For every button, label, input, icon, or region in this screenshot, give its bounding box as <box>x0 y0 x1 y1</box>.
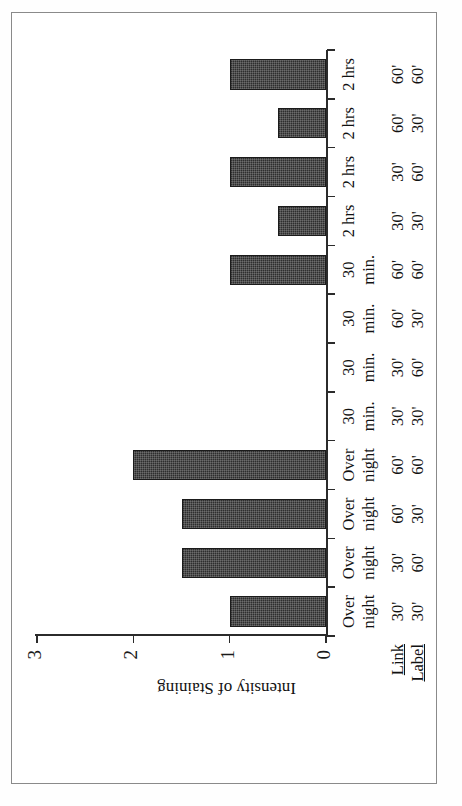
label-bottom: 60' <box>408 148 428 197</box>
x-axis-tick <box>327 98 335 100</box>
label-top: 60' <box>388 441 408 490</box>
x-axis-tick <box>327 196 335 198</box>
x-axis-tick <box>327 440 335 442</box>
x-axis-tick <box>327 293 335 295</box>
link-top: 30 <box>339 294 359 343</box>
scanned-page: Intensity of Staining 0123Overnight30'30… <box>0 0 462 806</box>
y-axis-tick <box>36 635 38 643</box>
link-top: 2 hrs <box>339 148 359 197</box>
row-header-label: Label <box>408 644 428 748</box>
bar-chart: Intensity of Staining 0123Overnight30'30… <box>25 42 423 754</box>
label-bottom: 60' <box>408 441 428 490</box>
link-bottom <box>359 197 379 246</box>
category-label-column: 2 hrs 60'30' <box>339 99 429 148</box>
category-label-column: Overnight60'60' <box>339 441 429 490</box>
link-bottom <box>359 99 379 148</box>
link-top: 2 hrs <box>339 50 359 99</box>
label-top: 30' <box>388 343 408 392</box>
link-bottom: night <box>359 441 379 490</box>
bar <box>182 548 327 578</box>
link-top: 30 <box>339 343 359 392</box>
y-axis-tick-label: 3 <box>24 650 46 690</box>
label-bottom: 60' <box>408 343 428 392</box>
label-top: 30' <box>388 587 408 636</box>
bar <box>230 596 326 626</box>
label-top: 30' <box>388 148 408 197</box>
category-label-column: 30min.30'60' <box>339 343 429 392</box>
label-top: 30' <box>388 392 408 441</box>
label-top: 30' <box>388 538 408 587</box>
label-bottom: 30' <box>408 197 428 246</box>
link-top: Over <box>339 538 359 587</box>
x-axis-tick <box>327 342 335 344</box>
y-axis-tick <box>133 635 135 643</box>
x-axis-tick <box>327 635 335 637</box>
bar <box>230 59 326 89</box>
link-bottom: min. <box>359 343 379 392</box>
label-top: 60' <box>388 490 408 539</box>
category-label-column: 2 hrs 60'60' <box>339 50 429 99</box>
link-bottom: night <box>359 538 379 587</box>
link-bottom: min. <box>359 392 379 441</box>
label-top: 60' <box>388 245 408 294</box>
bar <box>230 255 326 285</box>
link-top: Over <box>339 490 359 539</box>
y-axis-tick <box>229 635 231 643</box>
label-bottom: 30' <box>408 490 428 539</box>
link-top: 30 <box>339 245 359 294</box>
x-axis-tick <box>327 391 335 393</box>
bar <box>278 206 326 236</box>
y-axis-tick-label: 0 <box>313 650 335 690</box>
x-axis-tick <box>327 538 335 540</box>
category-label-column: Overnight30'30' <box>339 587 429 636</box>
label-bottom: 30' <box>408 392 428 441</box>
category-label-column: 30min.60'60' <box>339 245 429 294</box>
link-bottom: min. <box>359 294 379 343</box>
link-bottom: min. <box>359 245 379 294</box>
category-label-column: Overnight60'30' <box>339 490 429 539</box>
y-axis-tick-label: 1 <box>217 650 239 690</box>
category-label-column: Overnight30'60' <box>339 538 429 587</box>
link-top: 30 <box>339 392 359 441</box>
link-bottom: night <box>359 587 379 636</box>
bar <box>230 157 326 187</box>
link-top: 2 hrs <box>339 197 359 246</box>
label-bottom: 60' <box>408 50 428 99</box>
link-top: 2 hrs <box>339 99 359 148</box>
x-axis-tick <box>327 147 335 149</box>
value-axis-line <box>35 634 327 636</box>
category-label-column: 30min.30'30' <box>339 392 429 441</box>
bar <box>278 108 326 138</box>
label-bottom: 30' <box>408 587 428 636</box>
label-top: 60' <box>388 99 408 148</box>
bar <box>182 499 327 529</box>
label-bottom: 30' <box>408 294 428 343</box>
x-axis-tick <box>327 245 335 247</box>
link-bottom <box>359 50 379 99</box>
x-axis-tick <box>327 586 335 588</box>
row-headers: LinkLabel <box>388 644 428 748</box>
link-top: Over <box>339 587 359 636</box>
label-top: 60' <box>388 294 408 343</box>
rotated-figure-wrapper: Intensity of Staining 0123Overnight30'30… <box>11 12 437 784</box>
label-bottom: 60' <box>408 538 428 587</box>
link-bottom: night <box>359 490 379 539</box>
label-bottom: 30' <box>408 99 428 148</box>
plot-area: Intensity of Staining 0123Overnight30'30… <box>25 42 423 754</box>
category-label-column: 2 hrs 30'30' <box>339 197 429 246</box>
x-axis-tick <box>327 489 335 491</box>
label-bottom: 60' <box>408 245 428 294</box>
link-bottom <box>359 148 379 197</box>
label-top: 60' <box>388 50 408 99</box>
category-label-column: 30min.60'30' <box>339 294 429 343</box>
category-label-column: 2 hrs 30'60' <box>339 148 429 197</box>
bar <box>133 450 326 480</box>
y-axis-tick-label: 2 <box>120 650 142 690</box>
x-axis-tick <box>327 49 335 51</box>
label-top: 30' <box>388 197 408 246</box>
link-top: Over <box>339 441 359 490</box>
row-header-link: Link <box>388 644 408 748</box>
